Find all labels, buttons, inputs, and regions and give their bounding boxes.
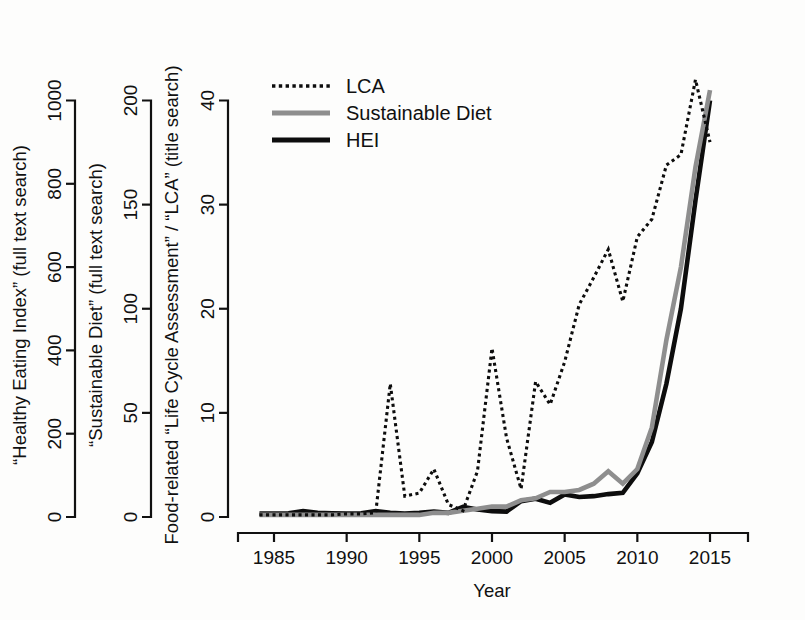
x-tick-label: 2005 (544, 547, 586, 568)
chart-legend: LCA Sustainable Diet HEI (272, 75, 492, 151)
y-tick-label: 600 (44, 251, 65, 283)
x-axis-title: Year (473, 580, 510, 601)
y-tick-label: 0 (120, 512, 141, 523)
y-tick-label: 1000 (44, 79, 65, 121)
y-tick-label: 40 (197, 90, 218, 111)
x-tick-label: 2000 (471, 547, 513, 568)
y-tick-label: 30 (197, 194, 218, 215)
y-axis-sustainable-diet-title: “Sustainable Diet” (full text search) (85, 163, 106, 447)
y-tick-label: 800 (44, 168, 65, 200)
y-tick-label: 10 (197, 402, 218, 423)
y-axis-lca: 010203040 Food-related “Life Cycle Asses… (161, 65, 228, 544)
x-tick-label: 1985 (253, 547, 295, 568)
y-axis-hei-title: “Healthy Eating Index” (full text search… (9, 145, 30, 465)
x-axis: 1985199019952000200520102015 Year (238, 533, 748, 601)
legend-item-hei: HEI (272, 129, 379, 151)
x-tick-label: 2010 (616, 547, 658, 568)
chart-figure: 02004006008001000 “Healthy Eating Index”… (0, 0, 805, 620)
x-tick-label: 1995 (398, 547, 440, 568)
y-tick-label: 400 (44, 335, 65, 367)
legend-label-lca: LCA (346, 75, 386, 97)
chart-canvas: 02004006008001000 “Healthy Eating Index”… (0, 0, 805, 620)
y-tick-label: 50 (120, 402, 141, 423)
y-tick-label: 20 (197, 298, 218, 319)
y-tick-label: 0 (44, 512, 65, 523)
x-tick-label: 2015 (689, 547, 731, 568)
y-axis-hei: 02004006008001000 “Healthy Eating Index”… (9, 79, 75, 522)
series-line-sustainable-diet (259, 90, 710, 515)
y-tick-label: 0 (197, 512, 218, 523)
y-tick-label: 200 (120, 85, 141, 117)
legend-label-sustainable-diet: Sustainable Diet (346, 102, 492, 124)
legend-label-hei: HEI (346, 129, 379, 151)
series-group (259, 80, 710, 515)
y-tick-label: 150 (120, 189, 141, 221)
legend-item-sustainable-diet: Sustainable Diet (272, 102, 492, 124)
x-tick-label: 1990 (326, 547, 368, 568)
y-axis-sustainable-diet: 050100150200 “Sustainable Diet” (full te… (85, 85, 151, 523)
legend-item-lca: LCA (272, 75, 386, 97)
y-tick-label: 100 (120, 293, 141, 325)
y-axis-lca-title: Food-related “Life Cycle Assessment” / “… (161, 65, 182, 544)
y-tick-label: 200 (44, 418, 65, 450)
